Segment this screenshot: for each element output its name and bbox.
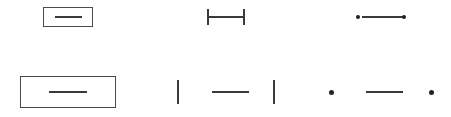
left-dot-small <box>356 15 360 19</box>
span-line-dotted-large <box>366 91 403 93</box>
inner-line-small <box>55 16 82 18</box>
right-dot-large <box>429 90 434 95</box>
span-line-small <box>209 16 243 18</box>
right-tick-small <box>243 9 245 25</box>
left-tick-large <box>177 80 179 104</box>
figure-canvas <box>0 0 451 117</box>
left-dot-large <box>329 90 334 95</box>
span-line-dotted-small <box>362 16 403 18</box>
right-dot-small <box>402 15 406 19</box>
span-line-large <box>212 91 249 93</box>
right-tick-large <box>273 80 275 104</box>
inner-line-large <box>49 91 87 93</box>
